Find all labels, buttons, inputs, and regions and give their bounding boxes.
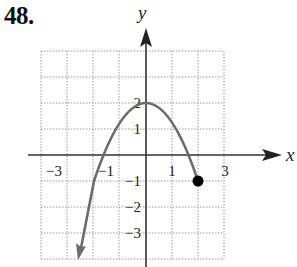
- y-tick-label: −1: [125, 173, 141, 189]
- x-tick-label: −3: [46, 163, 62, 179]
- x-axis: [28, 149, 282, 161]
- y-axis: [140, 28, 152, 267]
- y-tick-label: −3: [125, 225, 141, 241]
- endpoint-closed-dot: [193, 176, 204, 187]
- y-tick-label: 1: [134, 121, 142, 137]
- y-tick-label: −2: [125, 199, 141, 215]
- x-axis-label: x: [285, 144, 295, 165]
- y-axis-label: y: [136, 2, 147, 23]
- x-tick-label: 3: [221, 163, 229, 179]
- x-tick-label: 1: [168, 163, 176, 179]
- graph: x y −3 −1 1 3 2 1 −1 −2 −3: [0, 0, 297, 267]
